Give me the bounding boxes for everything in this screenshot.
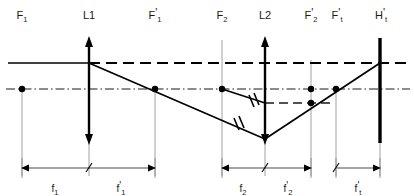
label-L2: L2 xyxy=(259,9,271,21)
node-dot-F2p xyxy=(308,86,314,92)
optics-ray-diagram: F1 L1 F'1 F2 L2 F'2 F't H't xyxy=(0,0,414,196)
node-dot-Ftp xyxy=(333,86,339,92)
node-dot-F2 xyxy=(219,86,225,92)
node-dot-object-point xyxy=(19,86,25,92)
diagram-background xyxy=(0,0,414,196)
node-dot-aux-F2p xyxy=(308,100,314,106)
ray-diagram-canvas: F1 L1 F'1 F2 L2 F'2 F't H't xyxy=(0,0,414,196)
label-L1: L1 xyxy=(83,9,95,21)
node-dot-F1p xyxy=(152,86,158,92)
